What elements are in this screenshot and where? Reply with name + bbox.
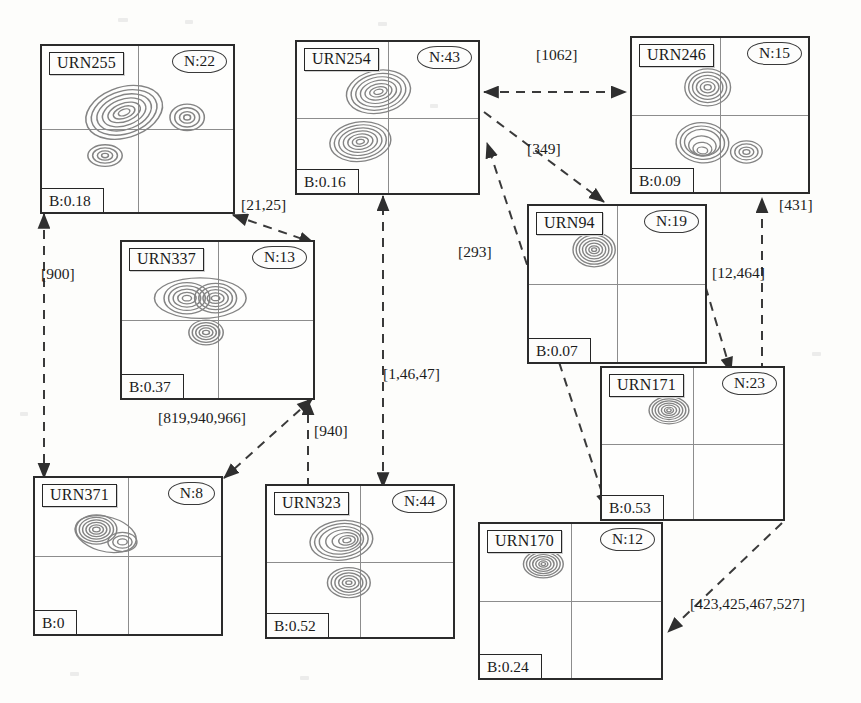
node-count-label: N:8 xyxy=(168,482,215,505)
edge-label-1-46-47: [1,46,47] xyxy=(383,365,440,383)
node-urn254[interactable]: URN254 N:43 B:0.16 xyxy=(295,40,480,195)
node-urn94[interactable]: URN94 N:19 B:0.07 xyxy=(527,204,707,364)
node-id-label: URN371 xyxy=(42,484,117,507)
node-id-label: URN254 xyxy=(304,48,379,71)
node-count-label: N:23 xyxy=(722,372,777,395)
node-value-label: B:0.07 xyxy=(527,338,591,364)
node-id-label: URN171 xyxy=(609,374,684,397)
scan-speck xyxy=(300,676,309,680)
diagram-canvas: URN246 left --> URN94 bottom-right --> U… xyxy=(0,0,861,703)
edge-label-431: [431] xyxy=(779,196,813,214)
edge-label-819-940-966: [819,940,966] xyxy=(158,409,246,427)
node-count-label: N:12 xyxy=(600,528,655,551)
node-value-label: B:0 xyxy=(33,610,77,636)
edge-label-423-425-467-527: [423,425,467,527] xyxy=(690,595,805,613)
edge-label-21-25: [21,25] xyxy=(241,196,286,214)
edge-label-293: [293] xyxy=(458,243,492,261)
node-urn337[interactable]: URN337 N:13 B:0.37 xyxy=(120,240,315,400)
node-value-label: B:0.16 xyxy=(295,169,359,195)
node-count-label: N:15 xyxy=(747,42,802,65)
node-id-label: URN323 xyxy=(274,492,349,515)
node-urn246[interactable]: URN246 N:15 B:0.09 xyxy=(630,36,810,194)
node-value-label: B:0.24 xyxy=(478,654,542,680)
node-id-label: URN337 xyxy=(129,248,204,271)
edge-21-25 xyxy=(233,215,314,243)
edge-label-1062: [1062] xyxy=(536,46,577,64)
node-urn371[interactable]: URN371 N:8 B:0 xyxy=(33,476,223,636)
node-urn171[interactable]: URN171 N:23 B:0.53 xyxy=(600,366,785,521)
scan-speck xyxy=(378,22,387,26)
scan-speck xyxy=(118,18,128,22)
node-value-label: B:0.52 xyxy=(265,613,329,639)
node-value-label: B:0.37 xyxy=(120,374,184,400)
node-value-label: B:0.09 xyxy=(630,168,694,194)
edge-label-12-464: [12,464] xyxy=(712,264,765,282)
node-count-label: N:43 xyxy=(417,46,472,69)
node-id-label: URN94 xyxy=(536,212,603,235)
edge-label-349: [349] xyxy=(527,140,561,158)
node-urn255[interactable]: URN255 N:22 B:0.18 xyxy=(40,44,235,214)
node-id-label: URN246 xyxy=(639,44,714,67)
node-id-label: URN255 xyxy=(49,52,124,75)
scan-speck xyxy=(20,412,28,416)
edge-423-425-467-527 xyxy=(668,523,782,632)
node-value-label: B:0.53 xyxy=(600,495,664,521)
scan-speck xyxy=(185,20,193,24)
node-count-label: N:44 xyxy=(392,490,447,513)
node-urn170[interactable]: URN170 N:12 B:0.24 xyxy=(478,522,663,680)
node-value-label: B:0.18 xyxy=(40,188,104,214)
edge-label-900: [900] xyxy=(41,265,75,283)
scan-speck xyxy=(812,352,821,356)
node-count-label: N:19 xyxy=(644,210,699,233)
edge-label-940: [940] xyxy=(314,422,348,440)
node-urn323[interactable]: URN323 N:44 B:0.52 xyxy=(265,484,455,639)
node-count-label: N:22 xyxy=(172,50,227,73)
scan-speck xyxy=(70,672,79,676)
node-id-label: URN170 xyxy=(487,530,562,553)
node-count-label: N:13 xyxy=(252,246,307,269)
